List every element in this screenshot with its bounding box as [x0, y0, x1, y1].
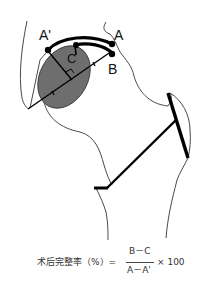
shaft-outline-left	[96, 188, 108, 240]
formula-numerator: B－C	[129, 247, 150, 256]
label-a: A	[114, 28, 123, 42]
label-b: B	[108, 62, 117, 76]
point-b	[109, 51, 115, 57]
label-c: C	[67, 52, 76, 65]
label-a-prime: A'	[39, 28, 51, 42]
necrotic-lesion-region	[27, 37, 100, 118]
formula-denominator: A－A'	[127, 266, 151, 275]
completeness-formula: 术后完整率（%）= B－C A－A' × 100	[0, 246, 208, 280]
trochanter-outline	[166, 93, 190, 238]
osteotomy-cut-line	[107, 120, 176, 188]
formula-lhs: 术后完整率（%）=	[37, 258, 116, 267]
femur-diagram	[0, 0, 208, 282]
point-c	[73, 42, 79, 48]
formula-multiplier: × 100	[157, 258, 185, 267]
fraction-bar	[126, 262, 154, 263]
bone-outline-head	[44, 102, 112, 185]
point-a-prime	[45, 47, 51, 53]
